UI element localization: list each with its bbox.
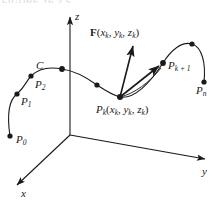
Pk-sub: k (103, 108, 106, 117)
point-C (59, 66, 65, 72)
Pn-sub: n (203, 89, 207, 98)
axis-x-label: x (21, 188, 26, 199)
vector-field-label-F: F(xk, yk, zk) (90, 27, 139, 38)
F-paren-close: ) (135, 26, 139, 38)
F-coord-x-sub: k (105, 31, 108, 40)
curve-label-C: C (36, 60, 43, 71)
point-P2 (28, 73, 33, 78)
P2-main: P (35, 78, 42, 90)
F-coord-z-sub: k (132, 31, 135, 40)
P0-sub: 0 (23, 138, 27, 147)
point-label-P1: P1 (21, 96, 31, 107)
Pk-coord-x-sub: k (115, 108, 118, 117)
Pk-coord-y-sub: k (128, 108, 131, 117)
axes-group (17, 17, 205, 185)
axis-y-label: y (202, 166, 207, 177)
P0-main: P (16, 133, 23, 145)
point-label-Pk-with-coordinates: Pk(xk, yk, zk) (96, 104, 148, 115)
P2-sub: 2 (42, 83, 46, 92)
point-label-Pn: Pn (196, 85, 206, 96)
Pk1-main: P (168, 59, 175, 71)
point-P0 (7, 133, 12, 138)
axis-z-label: z (75, 11, 79, 22)
F-symbol: F (90, 26, 97, 38)
vector-field-curve-figure: FIGURE 16.2.5 (0, 0, 219, 203)
point-Pk-plus-1 (160, 60, 166, 66)
curve-node-dots (7, 41, 206, 138)
Pk-main: P (96, 103, 103, 115)
Pk-paren-close: ) (145, 103, 149, 115)
point-label-Pk-plus-1: Pk + 1 (168, 60, 191, 71)
point-label-P2: P2 (35, 79, 45, 90)
Pn-main: P (196, 84, 203, 96)
P1-main: P (21, 95, 28, 107)
P1-sub: 1 (28, 100, 32, 109)
y-axis (70, 135, 205, 159)
secant-vector-arrow (120, 66, 159, 97)
point-crest (189, 41, 194, 46)
Pk-coord-z-sub: k (141, 108, 144, 117)
Pk-coord-x: x (110, 103, 115, 115)
point-label-P0: P0 (16, 134, 26, 145)
F-coord-y-sub: k (119, 31, 122, 40)
point-mid (94, 82, 99, 87)
Pk1-sub: k + 1 (175, 64, 191, 73)
field-vector-F-arrow (120, 46, 133, 97)
point-P1 (14, 91, 19, 96)
